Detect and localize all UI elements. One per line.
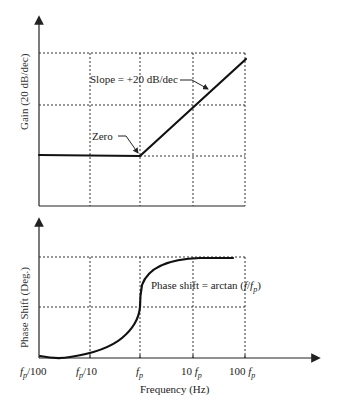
zero-pointer-arrow xyxy=(118,136,138,153)
tick-100fp: 100 fp xyxy=(229,365,255,380)
x-tick-labels: fp/100 fp/10 fp 10 fp 100 fp xyxy=(20,365,255,380)
frequency-x-label: Frequency (Hz) xyxy=(140,383,210,396)
slope-pointer-arrow xyxy=(180,80,208,89)
phase-grid xyxy=(39,257,245,358)
phase-curve xyxy=(40,258,233,358)
tick-10fp: 10 fp xyxy=(181,365,202,380)
zero-label: Zero xyxy=(92,130,113,142)
slope-label: Slope = +20 dB/dec xyxy=(90,73,178,85)
phase-formula-label: Phase shift = arctan (f/fp) xyxy=(151,279,261,294)
gain-chart: Gain (20 dB/dec) Zero Slope = +20 dB/dec xyxy=(18,20,246,206)
tick-fp-10: fp/10 xyxy=(76,365,98,380)
tick-fp-100: fp/100 xyxy=(20,365,47,380)
tick-fp: fp xyxy=(136,365,143,380)
phase-chart: Phase Shift (Deg.) Phase shift = arctan … xyxy=(18,222,316,396)
phase-y-label: Phase Shift (Deg.) xyxy=(18,267,31,348)
gain-y-label: Gain (20 dB/dec) xyxy=(18,53,31,130)
bode-plot-figure: Gain (20 dB/dec) Zero Slope = +20 dB/dec xyxy=(0,0,339,407)
